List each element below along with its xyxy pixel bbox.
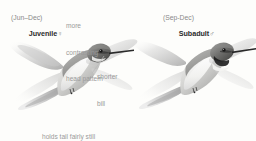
annotation-shorter-bill-line2: bill [97, 100, 118, 109]
bird-dates-juvenile: (Jun–Dec) [11, 14, 42, 22]
sex-symbol-female: ♀ [57, 30, 62, 37]
annotation-shorter-bill: shorter bill [97, 56, 118, 126]
field-guide-plate: Juvenile♀ (Jun–Dec) Subadult♂ (Sep-Dec) … [0, 0, 256, 141]
annotation-tail-behavior-line1: holds tail fairly still [42, 133, 95, 141]
bird-name-subadult: Subadult [179, 29, 209, 38]
annotation-shorter-bill-line1: shorter [97, 73, 118, 82]
bird-name-juvenile: Juvenile [29, 29, 57, 38]
bird-label-subadult-male: Subadult♂ [161, 4, 214, 59]
bird-label-juvenile-female: Juvenile♀ [11, 4, 62, 59]
bird-dates-subadult: (Sep-Dec) [163, 14, 194, 22]
annotation-tail-behavior: holds tail fairly still when hovering [42, 116, 95, 141]
sex-symbol-male: ♂ [209, 30, 214, 37]
annotation-head-pattern-line1: more [66, 22, 103, 31]
